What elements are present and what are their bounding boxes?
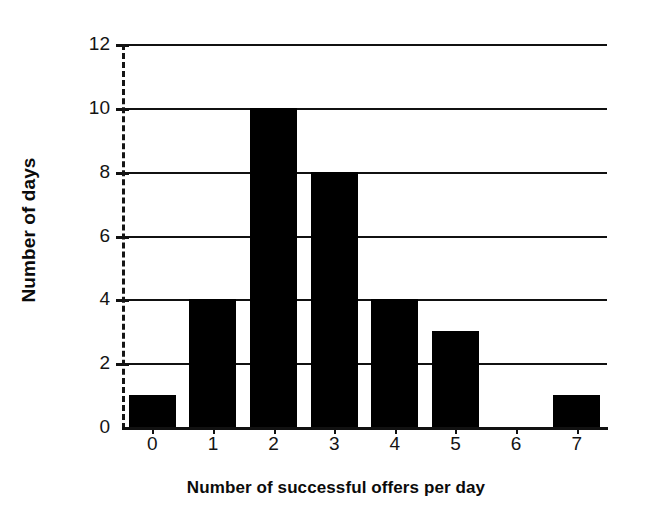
gridline — [122, 236, 607, 238]
x-axis-tick-label: 3 — [304, 433, 364, 455]
bar — [311, 172, 358, 427]
gridline — [122, 108, 607, 110]
y-axis-tick-label: 0 — [66, 416, 110, 438]
y-axis-tick-label: 10 — [66, 97, 110, 119]
y-axis-tick-label: 4 — [66, 288, 110, 310]
y-axis-tick-label: 6 — [66, 225, 110, 247]
histogram-figure: Number of days 024681012 01234567 Number… — [0, 0, 656, 515]
y-axis-title: Number of days — [0, 0, 56, 460]
gridline — [122, 172, 607, 174]
x-axis-title: Number of successful offers per day — [56, 478, 616, 498]
y-axis-tick-label: 2 — [66, 352, 110, 374]
plot-area — [122, 44, 607, 427]
y-axis-tick-label: 12 — [66, 33, 110, 55]
x-axis-tick-label: 4 — [365, 433, 425, 455]
bar — [129, 395, 176, 427]
x-axis-tick-label: 0 — [122, 433, 182, 455]
y-axis-line — [122, 44, 125, 429]
x-axis-tick-label: 5 — [425, 433, 485, 455]
bar — [189, 299, 236, 427]
x-axis-line — [122, 427, 608, 430]
x-axis-tick-label: 6 — [486, 433, 546, 455]
bar — [250, 108, 297, 427]
x-axis-tick-label: 7 — [547, 433, 607, 455]
y-axis-tick-label: 8 — [66, 161, 110, 183]
bar — [553, 395, 600, 427]
bar — [371, 299, 418, 427]
x-axis-tick-label: 2 — [244, 433, 304, 455]
y-axis-title-text: Number of days — [17, 158, 39, 303]
gridline — [122, 44, 607, 46]
bar — [432, 331, 479, 427]
x-axis-tick-label: 1 — [183, 433, 243, 455]
